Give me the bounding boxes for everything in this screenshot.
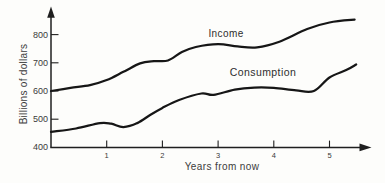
y-tick-label-800: 800: [20, 30, 48, 40]
x-tick-label-1: 1: [99, 152, 115, 160]
x-tick-label-2: 2: [154, 152, 170, 160]
consumption-curve: [51, 65, 356, 132]
income-curve: [51, 20, 355, 91]
x-tick-label-4: 4: [266, 152, 282, 160]
chart: Billions of dollars Years from now Incom…: [0, 0, 385, 183]
y-axis-arrowhead: [47, 7, 55, 18]
y-tick-label-700: 700: [20, 58, 48, 68]
y-axis-title: Billions of dollars: [18, 44, 29, 125]
y-tick-label-400: 400: [20, 142, 48, 152]
x-tick-label-5: 5: [322, 152, 338, 160]
x-tick-label-3: 3: [210, 152, 226, 160]
x-axis-title: Years from now: [185, 161, 260, 172]
x-axis-arrowhead: [360, 144, 372, 152]
consumption-series-label: Consumption: [230, 66, 296, 78]
y-tick-label-500: 500: [20, 114, 48, 124]
y-tick-label-600: 600: [20, 86, 48, 96]
income-series-label: Income: [208, 28, 243, 39]
